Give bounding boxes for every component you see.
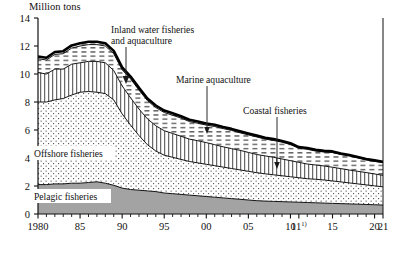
y-axis-unit-label: Million tons bbox=[29, 1, 81, 12]
x-tick-label: 85 bbox=[75, 221, 86, 232]
x-tick-label: 00 bbox=[201, 221, 212, 232]
x-tick-label: 90 bbox=[117, 221, 128, 232]
y-axis-tick-labels: 02468101214 bbox=[20, 13, 31, 220]
y-tick-label: 6 bbox=[25, 125, 30, 136]
x-tick-label: 21 bbox=[378, 221, 389, 232]
y-tick-label: 0 bbox=[25, 209, 30, 220]
label-inland-line1: Inland water fisheries bbox=[111, 24, 194, 35]
x-tick-label: 05 bbox=[243, 221, 254, 232]
y-tick-label: 10 bbox=[20, 69, 31, 80]
x-axis-ticks bbox=[38, 214, 383, 219]
x-axis-tick-labels: 1980859095000510111)152021 bbox=[28, 220, 389, 232]
y-tick-label: 12 bbox=[20, 41, 31, 52]
y-tick-label: 8 bbox=[25, 97, 30, 108]
label-marine-aquaculture: Marine aquaculture bbox=[176, 74, 251, 85]
x-tick-label: 15 bbox=[327, 221, 338, 232]
y-tick-label: 14 bbox=[20, 13, 31, 24]
x-tick-label: 111) bbox=[291, 220, 307, 232]
chart-canvas: 02468101214 1980859095000510111)152021 M… bbox=[0, 0, 405, 260]
label-inland-line2: and aquaculture bbox=[111, 35, 172, 46]
label-offshore-fisheries: Offshore fisheries bbox=[34, 148, 103, 159]
label-pelagic-fisheries: Pelagic fisheries bbox=[34, 191, 97, 202]
fisheries-production-chart: 02468101214 1980859095000510111)152021 M… bbox=[0, 0, 405, 260]
x-tick-label: 1980 bbox=[28, 221, 49, 232]
label-coastal-fisheries: Coastal fisheries bbox=[243, 105, 307, 116]
y-tick-label: 4 bbox=[25, 153, 31, 164]
x-tick-label: 95 bbox=[159, 221, 170, 232]
y-tick-label: 2 bbox=[25, 181, 30, 192]
